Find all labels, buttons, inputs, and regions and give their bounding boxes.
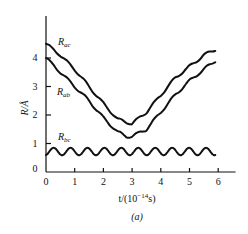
x-tick-label: 6	[216, 177, 221, 187]
y-tick-label: 4	[33, 53, 38, 63]
x-axis-label-prefix: t/(10	[118, 193, 137, 204]
data-curves	[46, 44, 215, 155]
series-label-rac: Rac	[58, 36, 71, 49]
series-label-rab-sub: ab	[63, 91, 70, 99]
y-axis-label: R/Å	[19, 101, 30, 116]
series-label-rab: Rab	[57, 86, 70, 99]
y-tick-label: 2	[33, 110, 38, 120]
x-tick-label: 0	[44, 177, 49, 187]
y-tick-label: 1	[33, 139, 38, 149]
curve-rab	[46, 58, 215, 138]
x-tick-label: 3	[130, 177, 135, 187]
x-axis-label: t/(10−14s)	[118, 192, 155, 204]
curve-rbc	[46, 148, 215, 155]
x-tick-label: 2	[101, 177, 106, 187]
y-tick-label: 3	[33, 82, 38, 92]
series-label-rac-sub: ac	[64, 41, 71, 49]
x-tick-label: 5	[187, 177, 192, 187]
series-label-rbc-sub: bc	[64, 136, 71, 144]
x-tick-label: 4	[158, 177, 163, 187]
figure-caption: (a)	[131, 211, 143, 222]
x-tick-label: 1	[72, 177, 77, 187]
x-axis-label-exponent: −14	[137, 192, 148, 200]
series-label-rbc: Rbc	[58, 131, 71, 144]
x-axis-label-suffix: s)	[148, 193, 155, 204]
y-tick-label: 0	[33, 164, 38, 174]
